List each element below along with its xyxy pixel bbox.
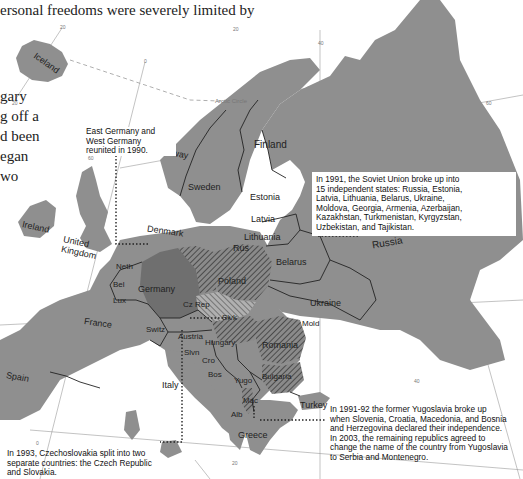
- label-switz: Switz: [146, 325, 165, 335]
- label-mold: Mold: [302, 319, 319, 329]
- label-bos: Bos: [208, 370, 222, 380]
- grid-label-lng-20-bottom: 20: [232, 460, 238, 466]
- label-poland: Poland: [218, 276, 246, 286]
- label-germany: Germany: [138, 284, 175, 294]
- label-czech: Cz Rep: [183, 300, 210, 310]
- label-rus: Rus: [233, 243, 249, 253]
- grid-label-lat-60: 60: [486, 100, 492, 106]
- label-sweden: Sweden: [188, 182, 221, 192]
- label-cro: Cro: [202, 356, 215, 366]
- callout-soviet-union: In 1991, the Soviet Union broke up into …: [312, 172, 516, 236]
- intro-fragment-3: d been: [0, 126, 40, 146]
- intro-fragment-4: egan: [0, 146, 28, 166]
- sardinia: [124, 410, 140, 440]
- label-finland: Finland: [254, 140, 287, 150]
- label-estonia: Estonia: [250, 192, 280, 202]
- label-hungary: Hungary: [205, 338, 235, 348]
- label-slvn: Slvn: [184, 348, 200, 358]
- callout-line: Uzbekistan, and Tajikistan.: [316, 223, 512, 233]
- label-italy: Italy: [162, 380, 179, 390]
- grid-label-lat-m20: 20: [12, 100, 18, 106]
- grid-label-lng-m20: 20: [60, 24, 66, 30]
- callout-yugoslavia: In 1991-92 the former Yugoslavia broke u…: [330, 405, 520, 463]
- label-greece: Greece: [238, 430, 268, 440]
- label-romania: Romania: [262, 340, 298, 350]
- label-alb: Alb: [231, 410, 243, 420]
- intro-line-1: ersonal freedoms were severely limited b…: [0, 0, 255, 20]
- label-lux: Lux: [113, 296, 126, 306]
- callout-germany-reunion: East Germany and West Germany reunited i…: [86, 127, 176, 156]
- label-neth: Neth: [116, 262, 133, 272]
- label-ukraine: Ukraine: [310, 298, 341, 308]
- grid-label-60-left: 60: [88, 155, 94, 161]
- grid-label-lng-40: 40: [318, 40, 324, 46]
- callout-line: reunited in 1990.: [86, 146, 176, 156]
- label-bel: Bel: [113, 280, 125, 290]
- label-austria: Austria: [178, 332, 203, 342]
- label-slovakia: Slvk: [222, 313, 237, 323]
- label-bulgaria: Bulgaria: [262, 372, 291, 382]
- callout-czechoslovakia: In 1993, Czechoslovakia split into two s…: [7, 449, 157, 478]
- callout-line: and Slovakia.: [7, 468, 157, 478]
- intro-fragment-2: g off a: [0, 106, 39, 126]
- grid-label-lat-40: 40: [414, 378, 420, 384]
- grid-label-lng-0-bottom: 0: [36, 440, 39, 446]
- grid-label-lng-20: 20: [233, 26, 239, 32]
- label-yugo: Yugo: [234, 376, 252, 386]
- label-turkey: Turkey: [300, 400, 327, 410]
- grid-label-lng-0: 0: [144, 58, 147, 64]
- arctic-circle-label: Arctic Circle: [215, 98, 247, 104]
- label-belarus: Belarus: [276, 257, 307, 267]
- callout-line: to Serbia and Montenegro.: [330, 453, 520, 463]
- label-latvia: Latvia: [251, 214, 275, 224]
- label-lithuania: Lithuania: [244, 232, 281, 242]
- intro-fragment-5: wo: [0, 166, 18, 186]
- label-mac: Mac: [243, 396, 258, 406]
